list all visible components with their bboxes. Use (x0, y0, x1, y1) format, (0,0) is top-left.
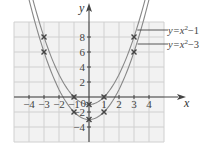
y-tick-label: −4 (73, 121, 85, 133)
y-axis-label: y (78, 1, 85, 15)
origin-label: 0 (81, 97, 87, 109)
y-tick-label: 2 (80, 76, 86, 88)
x-tick-label: 4 (146, 98, 152, 110)
x-tick-label: 1 (101, 98, 107, 110)
y-tick-label: 4 (80, 61, 86, 73)
y-tick-label: 6 (80, 46, 86, 58)
y-tick-label: 8 (80, 31, 86, 43)
graph-figure: xy −4−3−2−11234−4−224680 y=x2−1y=x2−3 (0, 0, 208, 145)
legend-label-2: y=x2−3 (167, 38, 199, 50)
x-tick-label: −2 (53, 98, 65, 110)
x-tick-label: 2 (116, 98, 122, 110)
legend-label-1: y=x2−1 (167, 24, 199, 36)
x-tick-label: −4 (23, 98, 35, 110)
x-tick-label: −3 (38, 98, 50, 110)
x-axis-label: x (183, 96, 190, 110)
x-tick-label: 3 (131, 98, 137, 110)
